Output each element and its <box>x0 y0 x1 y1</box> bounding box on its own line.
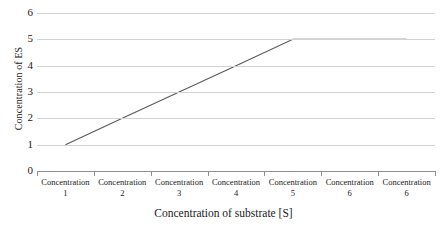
x-category-number: 6 <box>378 188 435 199</box>
gridline-y-2 <box>37 118 435 119</box>
gridline-y-6 <box>37 13 435 14</box>
y-tick-label-4: 4 <box>3 60 33 71</box>
x-category-label-6: Concentration6 <box>321 177 378 203</box>
x-category-name: Concentration <box>208 177 265 188</box>
y-tick-label-6: 6 <box>3 7 33 18</box>
x-tick-0 <box>37 171 38 176</box>
x-category-name: Concentration <box>94 177 151 188</box>
x-category-name: Concentration <box>264 177 321 188</box>
x-axis-ticks <box>37 171 435 176</box>
x-axis-category-labels: Concentration1Concentration2Concentratio… <box>37 177 435 203</box>
y-tick-label-5: 5 <box>3 33 33 44</box>
x-category-number: 6 <box>321 188 378 199</box>
x-tick-5 <box>321 171 322 176</box>
x-category-label-4: Concentration4 <box>208 177 265 203</box>
y-tick-label-1: 1 <box>3 139 33 150</box>
x-category-label-5: Concentration5 <box>264 177 321 203</box>
y-axis-tick-labels: 6543210 <box>0 13 33 171</box>
gridline-y-5 <box>37 39 435 40</box>
x-tick-3 <box>208 171 209 176</box>
x-tick-2 <box>151 171 152 176</box>
x-category-label-1: Concentration1 <box>37 177 94 203</box>
x-category-number: 1 <box>37 188 94 199</box>
y-tick-label-3: 3 <box>3 86 33 97</box>
x-category-name: Concentration <box>321 177 378 188</box>
gridline-y-3 <box>37 92 435 93</box>
plot-area <box>37 13 435 171</box>
line-chart: Concentration of ES 6543210 Concentratio… <box>0 0 447 232</box>
gridline-y-1 <box>37 145 435 146</box>
x-category-label-3: Concentration3 <box>151 177 208 203</box>
y-tick-label-2: 2 <box>3 112 33 123</box>
x-category-number: 3 <box>151 188 208 199</box>
y-tick-label-0: 0 <box>3 165 33 176</box>
x-category-number: 2 <box>94 188 151 199</box>
x-category-name: Concentration <box>37 177 94 188</box>
x-category-label-2: Concentration2 <box>94 177 151 203</box>
gridline-y-4 <box>37 66 435 67</box>
x-category-name: Concentration <box>151 177 208 188</box>
x-category-number: 4 <box>208 188 265 199</box>
x-tick-7 <box>435 171 436 176</box>
x-tick-1 <box>94 171 95 176</box>
x-category-label-7: Concentration6 <box>378 177 435 203</box>
x-tick-4 <box>264 171 265 176</box>
x-tick-6 <box>378 171 379 176</box>
x-category-number: 5 <box>264 188 321 199</box>
x-axis-title: Concentration of substrate [S] <box>0 207 447 219</box>
x-category-name: Concentration <box>378 177 435 188</box>
